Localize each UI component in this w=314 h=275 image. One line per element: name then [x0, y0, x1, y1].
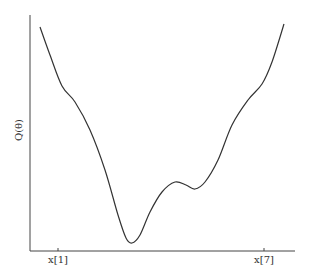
chart: x[1] x[7] Q(θ)	[0, 0, 314, 275]
objective-curve	[40, 24, 284, 243]
x-tick-label-1: x[1]	[48, 254, 68, 265]
x-tick-label-7: x[7]	[254, 254, 274, 265]
y-axis-label: Q(θ)	[13, 119, 24, 141]
